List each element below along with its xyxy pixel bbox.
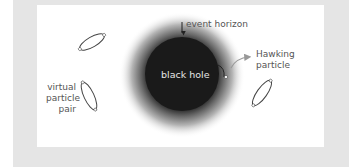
black-hole-label: black hole — [161, 69, 210, 80]
virtual-pair-label-line2: particle — [46, 93, 76, 104]
event-horizon-label: event horizon — [186, 19, 248, 30]
virtual-pair-right-icon — [248, 77, 275, 110]
virtual-pair-left-icon — [77, 79, 100, 113]
virtual-pair-top-left-icon — [76, 30, 108, 54]
hawking-particle-label-line2: particle — [256, 60, 295, 71]
virtual-pair-label: virtual particle pair — [46, 82, 76, 115]
hawking-particle-label-line1: Hawking — [256, 49, 295, 60]
virtual-pair-label-line3: pair — [46, 104, 76, 115]
virtual-pair-label-line1: virtual — [46, 82, 76, 93]
hawking-particle-label: Hawking particle — [256, 49, 295, 71]
